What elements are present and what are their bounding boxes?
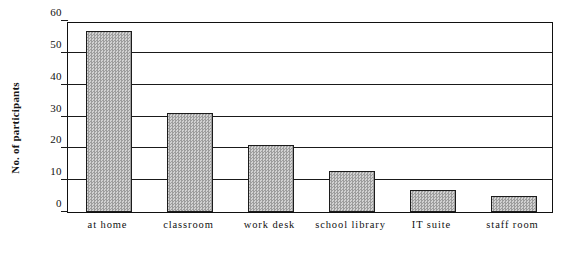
bar-staff-room[interactable]: [491, 196, 537, 212]
y-axis-tick-labels: 0102030405060: [36, 12, 62, 215]
x-axis-tick-labels: at homeclassroomwork deskschool libraryI…: [67, 218, 553, 240]
y-axis-tick-mark: [61, 52, 68, 53]
x-axis-tick-label: staff room: [472, 218, 553, 231]
bar-school-library[interactable]: [329, 171, 375, 212]
bar-chart: No. of participants 0102030405060 at hom…: [0, 0, 570, 256]
x-axis-tick-label: school library: [310, 218, 391, 231]
x-axis-tick-label: work desk: [229, 218, 310, 231]
y-axis-tick-label: 0: [36, 198, 62, 209]
y-axis-tick-label: 20: [36, 134, 62, 145]
x-axis-tick-label: IT suite: [391, 218, 472, 231]
y-axis-tick-label: 40: [36, 71, 62, 82]
y-axis-tick-label: 50: [36, 39, 62, 50]
bar-classroom[interactable]: [167, 113, 213, 212]
bar-at-home[interactable]: [86, 31, 132, 212]
bar-IT-suite[interactable]: [410, 190, 456, 212]
bars-group: [68, 23, 552, 212]
y-axis-tick-label: 10: [36, 166, 62, 177]
x-axis-tick-label: at home: [67, 218, 148, 231]
y-axis-tick-mark: [61, 147, 68, 148]
x-axis-tick-label: classroom: [148, 218, 229, 231]
y-axis-tick-mark: [61, 211, 68, 212]
y-axis-title: No. of participants: [0, 0, 30, 256]
y-axis-tick-mark: [61, 84, 68, 85]
bar-work-desk[interactable]: [248, 145, 294, 212]
y-axis-tick-mark: [61, 179, 68, 180]
y-axis-tick-mark: [61, 20, 68, 21]
plot-area: [67, 22, 553, 213]
y-axis-tick-mark: [61, 116, 68, 117]
y-axis-tick-label: 60: [36, 7, 62, 18]
y-axis-tick-label: 30: [36, 103, 62, 114]
